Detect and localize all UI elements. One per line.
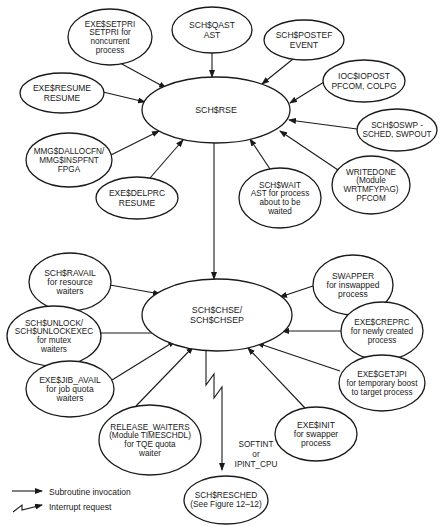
node-ioc-iopost: IOC$IOPOSTPFCOM, COLPG <box>323 60 405 102</box>
node-exe-setpri: EXE$SETPRISETPRI fornoncurrentprocess <box>68 9 152 65</box>
node-label: SCH$RESCHED(See Figure 12–12) <box>190 490 262 509</box>
node-sch-rse: SCH$RSE <box>142 77 290 143</box>
node-exe-resume: EXE$RESUMERESUME <box>20 73 104 113</box>
edge-exe-init-to-sch-chse <box>248 348 305 408</box>
node-exe-delprc: EXE$DELPRCRESUME <box>96 177 178 219</box>
interrupt-arrow-icon <box>13 505 42 512</box>
edge-exe-jib-avail-to-sch-chse <box>112 341 175 380</box>
node-exe-creprc: EXE$CREPRCfor newly createdprocess <box>341 302 423 360</box>
legend-item-interrupt: Interrupt request <box>13 502 112 512</box>
node-sch-resched: SCH$RESCHED(See Figure 12–12) <box>184 476 268 524</box>
legend: Subroutine invocation Interrupt request <box>12 487 131 513</box>
edge-exe-getjpi-to-sch-chse <box>257 343 340 371</box>
node-label: IOC$IOPOSTPFCOM, COLPG <box>331 71 396 90</box>
node-exe-init: EXE$INITfor swapperprocess <box>275 407 357 461</box>
node-release-waiters: RELEASE_WAITERS(Module TIMESCHDL)for TQE… <box>99 405 201 475</box>
node-writedone: WRITEDONE(ModuleWRTMFYPAG)PFCOM <box>332 156 410 214</box>
legend-label-interrupt: Interrupt request <box>49 502 112 512</box>
edge-exe-delprc-to-sch-rse <box>150 140 183 178</box>
edge-writedone-to-sch-rse <box>280 131 338 170</box>
edge-swapper-to-sch-chse <box>280 286 313 297</box>
node-label: SCH$OSWP -SCHED, SWPOUT <box>362 121 431 139</box>
edge-exe-resume-to-sch-rse <box>103 92 145 102</box>
node-label: SCH$CHSE/SCH$CHSEP <box>190 305 244 325</box>
edge-sch-wait-to-sch-rse <box>250 139 270 169</box>
node-sch-postef: SCH$POSTEFEVENT <box>264 20 344 60</box>
legend-label-subroutine: Subroutine invocation <box>49 487 131 497</box>
edge-exe-setpri-to-sch-rse <box>120 63 166 88</box>
edge-ioc-iopost-to-sch-rse <box>290 82 324 103</box>
edge-mmg-dallocfn-to-sch-rse <box>111 131 159 155</box>
interrupt-edge-label: SOFTINTorIPINT_CPU <box>235 440 278 469</box>
node-sch-oswp: SCH$OSWP -SCHED, SWPOUT <box>357 109 437 151</box>
interrupt-edge-sch-chse-to-sch-resched <box>206 351 222 470</box>
node-sch-chse: SCH$CHSE/SCH$CHSEP <box>142 279 292 351</box>
edge-release-waiters-to-sch-chse <box>136 347 193 406</box>
node-sch-wait: SCH$WAITAST for processabout to bewaited <box>239 168 321 228</box>
node-mmg-dallocfn: MMG$DALLOCFN/MMG$INSPFNTFPGA <box>26 133 112 187</box>
node-sch-unlock: SCH$UNLOCK/SCH$UNLOCKEXECfor mutexwaiter… <box>7 306 101 366</box>
edge-sch-oswp-to-sch-rse <box>289 120 357 129</box>
interrupt-scheduling-diagram: SOFTINTorIPINT_CPU EXE$SETPRISETPRI forn… <box>0 0 444 527</box>
interrupt-edge-layer: SOFTINTorIPINT_CPU <box>206 351 277 470</box>
legend-item-subroutine: Subroutine invocation <box>12 487 131 497</box>
node-exe-getjpi: EXE$GETJPIfor temporary boostto target p… <box>339 355 425 411</box>
node-label: SCH$RSE <box>195 105 237 115</box>
node-exe-jib-avail: EXE$JIB_AVAILfor job quotawaiters <box>26 361 114 417</box>
node-sch-ravail: SCH$RAVAILfor resourcewaiters <box>29 253 111 311</box>
edge-sch-postef-to-sch-rse <box>262 59 293 84</box>
node-sch-qast: SCH$QASTAST <box>172 7 252 53</box>
edge-sch-ravail-to-sch-chse <box>110 285 160 294</box>
